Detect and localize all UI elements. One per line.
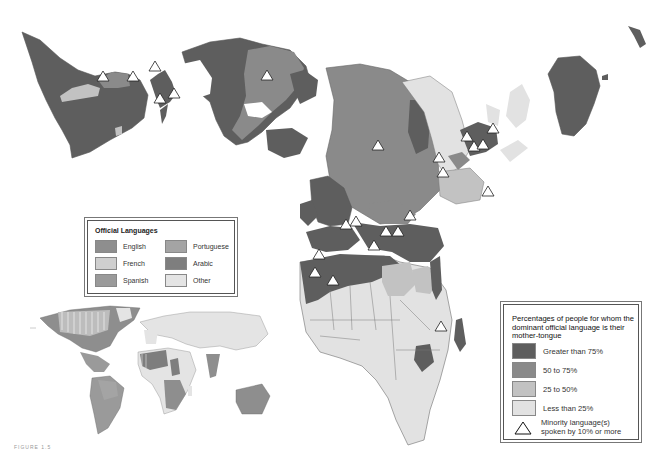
legend-item-arabic: Arabic [165, 257, 213, 269]
legend-item-spanish: Spanish [95, 274, 148, 286]
legend-item-minority: Minority language(s)spoken by 10% or mor… [512, 419, 621, 437]
triangle-icon [512, 421, 534, 435]
legend-item-25-50: 25 to 50% [512, 381, 577, 399]
portuguese-swatch [165, 240, 187, 253]
figure-caption: FIGURE 1.5 [14, 444, 51, 450]
inset-world-map [30, 306, 270, 434]
arctic-region [182, 38, 318, 158]
legend-item-english: English [95, 240, 146, 252]
map-figure: Official Languages English Portuguese Fr… [0, 0, 650, 451]
minority-label-line2: spoken by 10% or more [541, 427, 621, 436]
legend-item-less-25: Less than 25% [512, 400, 593, 418]
eurasia-region [326, 64, 530, 224]
legend-item-portuguese: Portuguese [165, 240, 229, 252]
africa-region [300, 254, 466, 445]
north-america-region [22, 32, 176, 158]
spanish-swatch [95, 274, 117, 287]
legend-item-greater-75: Greater than 75% [512, 343, 603, 361]
legend-title: Official Languages [95, 227, 158, 234]
arabic-swatch [165, 257, 187, 270]
australia-region [548, 26, 646, 136]
french-swatch [95, 257, 117, 270]
greater-75-swatch [512, 343, 536, 359]
25-50-swatch [512, 381, 536, 397]
50-75-swatch [512, 362, 536, 378]
official-languages-legend: Official Languages English Portuguese Fr… [87, 220, 235, 294]
mother-tongue-legend: Percentages of people for whom the domin… [503, 304, 639, 440]
legend-item-french: French [95, 257, 145, 269]
english-swatch [95, 240, 117, 253]
less-25-swatch [512, 400, 536, 416]
legend-title: Percentages of people for whom the domin… [512, 315, 636, 341]
legend-item-other: Other [165, 274, 211, 286]
other-swatch [165, 274, 187, 287]
legend-item-50-75: 50 to 75% [512, 362, 577, 380]
